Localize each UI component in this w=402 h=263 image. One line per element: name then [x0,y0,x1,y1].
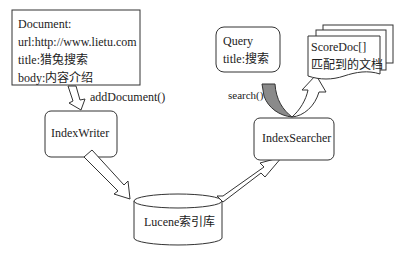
index-writer-label: IndexWriter [51,124,109,142]
index-searcher-label: IndexSearcher [262,129,331,147]
lucene-index-label: Lucene索引库 [144,213,215,231]
score-docs-label: ScoreDoc[] 匹配到的文档 [311,38,383,74]
search-label: search() [228,86,263,104]
document-box-label: Document: url:http://www.lietu.com title… [18,15,137,87]
document-line-body: body:内容介绍 [18,69,137,87]
index-to-searcher-arrow-icon [217,157,282,202]
query-box-label: Query title:搜索 [223,32,269,68]
results-return-arrow-icon [292,75,326,117]
score-docs-line-desc: 匹配到的文档 [311,56,383,74]
add-document-arrow-icon [68,86,85,110]
document-line-title-field: title:猎兔搜索 [18,51,137,69]
add-document-label: addDocument() [90,88,165,106]
document-line-url: url:http://www.lietu.com [18,33,137,51]
score-docs-line-type: ScoreDoc[] [311,38,383,56]
document-line-title: Document: [18,15,137,33]
search-call-arrow-icon [262,84,292,117]
query-line-field: title:搜索 [223,50,269,68]
query-line-title: Query [223,32,269,50]
